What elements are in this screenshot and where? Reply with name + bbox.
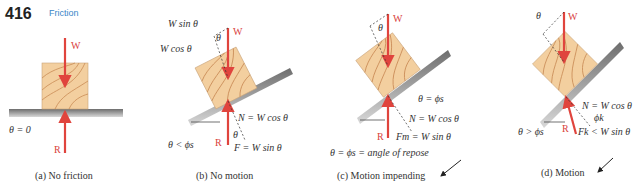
label-w: W	[568, 11, 578, 22]
label-r: R	[562, 123, 569, 134]
label-angle-cond: θ < ϕs	[168, 139, 194, 150]
caption-c: (c) Motion impending	[337, 170, 425, 182]
label-repose: θ = ϕs = angle of repose	[330, 147, 429, 158]
label-r: R	[377, 131, 384, 142]
label-w: W	[393, 13, 403, 24]
motion-direction-arrow	[441, 160, 461, 176]
caption-d: (d) Motion	[541, 167, 585, 179]
wood-block	[195, 47, 257, 109]
label-normal: N = W cos θ	[237, 112, 288, 123]
label-theta: θ	[216, 32, 221, 43]
label-phi-k: ϕk	[594, 112, 604, 123]
panel-a: W R θ = 0 (a) No friction	[9, 38, 123, 182]
label-theta: θ	[536, 10, 541, 21]
panel-d: W R θ N = W cos θ ϕk Fk < W sin θ θ > ϕs…	[518, 10, 632, 179]
label-angle-cond: θ > ϕs	[518, 126, 544, 137]
friction-diagram: W R θ = 0 (a) No friction W R W sin θ W …	[0, 0, 639, 185]
motion-direction-arrow	[598, 158, 613, 172]
label-theta-zero: θ = 0	[9, 124, 31, 135]
label-w-cos: W cos θ	[160, 43, 192, 54]
label-friction: Fk < W sin θ	[577, 126, 630, 137]
panel-c: W R θ θ = ϕs N = W cos θ Fm = W sin θ θ …	[330, 13, 461, 182]
label-normal: N = W cos θ	[581, 100, 632, 111]
label-friction: F = W sin θ	[233, 142, 282, 153]
label-friction: Fm = W sin θ	[395, 131, 451, 142]
label-theta-lower: θ	[233, 129, 238, 140]
label-theta-eq: θ = ϕs	[418, 93, 444, 104]
label-w: W	[233, 26, 243, 37]
caption-a: (a) No friction	[35, 170, 93, 182]
label-w: W	[71, 40, 81, 51]
label-r: R	[54, 144, 61, 155]
label-normal: N = W cos θ	[408, 113, 459, 124]
panel-b: W R W sin θ W cos θ θ N = W cos θ θ F = …	[160, 18, 293, 182]
label-theta: θ	[378, 22, 383, 33]
label-r: R	[215, 137, 222, 148]
label-w-sin: W sin θ	[168, 18, 198, 29]
caption-b: (b) No motion	[196, 170, 253, 182]
